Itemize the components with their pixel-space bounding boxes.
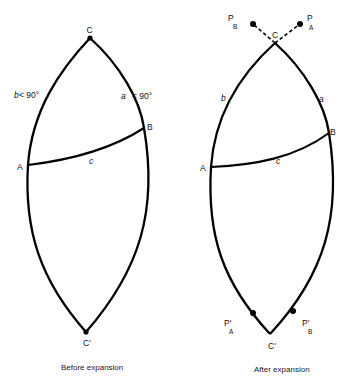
arc-b-left <box>27 38 90 332</box>
pole-pa-prime-dot <box>250 310 256 316</box>
side-a-label: a <box>121 91 126 101</box>
arc-a-right <box>86 38 149 332</box>
side-b-condition: < 90° <box>19 90 39 100</box>
pole-pa-label: P <box>307 13 313 23</box>
side-b-label: b <box>221 93 226 103</box>
vertex-a-label: A <box>200 163 206 173</box>
pole-pa-dot <box>297 21 303 27</box>
side-a-condition: < 90° <box>132 91 152 101</box>
vertex-c-label: C <box>272 30 278 40</box>
pole-pa-sub: A <box>309 24 314 31</box>
vertex-c-prime-label: C' <box>83 338 91 348</box>
side-a-label: a <box>319 94 324 104</box>
pole-pb-sub: B <box>233 23 237 30</box>
arc-c <box>28 128 144 165</box>
vertex-c-label: C <box>87 25 93 35</box>
spherical-triangle-figure: C A B C' b < 90° a < 90° c Before expans… <box>0 0 352 383</box>
arc-c <box>211 133 329 167</box>
vertex-c-dot <box>87 35 92 40</box>
arc-a-right <box>270 43 333 334</box>
pole-pb-dot <box>250 21 256 27</box>
dashed-extension-pa <box>275 24 300 43</box>
vertex-c-prime-label: C' <box>268 341 276 351</box>
caption-before: Before expansion <box>61 363 123 372</box>
vertex-a-label: A <box>17 162 23 172</box>
pole-pb-prime-label: P' <box>302 318 310 328</box>
pole-pb-prime-dot <box>290 308 296 314</box>
vertex-b-label: B <box>330 127 336 137</box>
side-c-label: c <box>89 156 94 166</box>
caption-after: After expansion <box>254 365 310 374</box>
after-expansion-panel: P B P A P' A P' B C A B C' b a c After e… <box>200 13 336 374</box>
vertex-c-prime-dot <box>83 329 88 334</box>
arc-b-left <box>210 43 275 334</box>
before-expansion-panel: C A B C' b < 90° a < 90° c Before expans… <box>14 25 153 372</box>
pole-pb-label: P <box>228 13 234 23</box>
pole-pa-prime-sub: A <box>229 328 234 335</box>
pole-pa-prime-label: P' <box>224 318 232 328</box>
pole-pb-prime-sub: B <box>308 328 312 335</box>
vertex-b-label: B <box>147 122 153 132</box>
